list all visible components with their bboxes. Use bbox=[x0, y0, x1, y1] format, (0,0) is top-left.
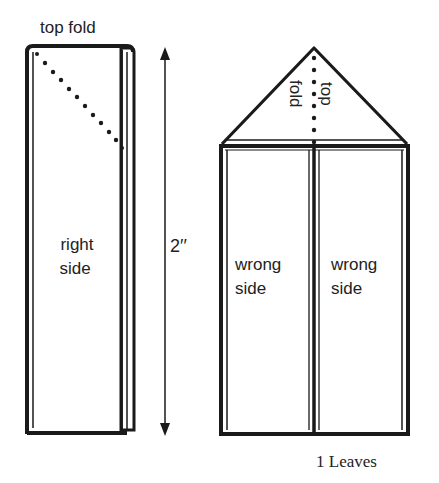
dimension-label: 2′′ bbox=[170, 236, 187, 256]
right-wrong-side-line2: side bbox=[331, 279, 362, 298]
top-fold-title: top fold bbox=[40, 18, 96, 37]
arrow-down-icon bbox=[160, 423, 170, 436]
fold-label-top: top bbox=[317, 82, 336, 106]
diagonal-fold-dots bbox=[35, 52, 124, 150]
left-wrong-side-line2: side bbox=[235, 279, 266, 298]
right-wrong-side-line1: wrong bbox=[330, 255, 377, 274]
arrow-up-icon bbox=[160, 47, 170, 60]
right-side-label-line2: side bbox=[59, 259, 90, 278]
left-wrong-side-line1: wrong bbox=[234, 255, 281, 274]
leaf-folding-diagram: top fold right side bbox=[0, 0, 439, 483]
figure-caption: 1 Leaves bbox=[316, 452, 377, 471]
vertical-fold-dots bbox=[312, 56, 316, 144]
right-side-label-line1: right bbox=[60, 235, 93, 254]
right-unfolded-leaf: top fold wrong side wrong side bbox=[221, 48, 408, 434]
height-dimension: 2′′ bbox=[160, 47, 192, 436]
fold-label-fold: fold bbox=[286, 80, 305, 107]
left-folded-strip: top fold right side bbox=[27, 18, 134, 434]
